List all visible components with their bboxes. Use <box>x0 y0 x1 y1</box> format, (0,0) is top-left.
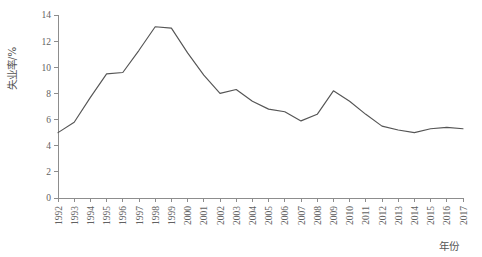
y-tick-label: 12 <box>42 37 52 47</box>
chart-figure: 02468101214 1992199319941995199619971998… <box>0 0 482 257</box>
x-tick-label: 2010 <box>345 206 355 225</box>
x-tick-label: 1997 <box>135 206 145 225</box>
x-tick-label: 1998 <box>151 206 161 225</box>
x-tick-label: 2013 <box>394 206 404 225</box>
x-tick-label: 1995 <box>102 206 112 225</box>
x-tick-label: 2001 <box>199 206 209 225</box>
x-axis-title: 年份 <box>439 240 460 252</box>
y-axis-tick-labels: 02468101214 <box>42 10 52 203</box>
x-tick-label: 2000 <box>183 206 193 225</box>
y-axis-title: 失业率/% <box>6 47 18 91</box>
x-tick-label: 2004 <box>248 206 258 225</box>
x-tick-label: 2005 <box>264 206 274 225</box>
y-tick-label: 2 <box>46 167 51 177</box>
x-axis-ticks <box>58 198 463 202</box>
x-tick-label: 2009 <box>329 206 339 225</box>
x-tick-label: 2003 <box>232 206 242 225</box>
x-tick-label: 1994 <box>86 206 96 225</box>
x-tick-label: 2011 <box>361 206 371 225</box>
x-tick-label: 2016 <box>442 206 452 225</box>
y-tick-label: 8 <box>46 89 51 99</box>
x-axis-tick-labels: 1992199319941995199619971998199920002001… <box>54 206 469 225</box>
x-tick-label: 2017 <box>459 206 469 225</box>
y-tick-label: 10 <box>42 63 52 73</box>
unemployment-rate-line <box>58 27 463 133</box>
x-tick-label: 2012 <box>378 206 388 225</box>
x-tick-label: 2008 <box>313 206 323 225</box>
y-tick-label: 6 <box>46 115 51 125</box>
y-tick-label: 4 <box>46 141 51 151</box>
x-tick-label: 2014 <box>410 206 420 225</box>
x-tick-label: 2006 <box>280 206 290 225</box>
plot-area: 02468101214 1992199319941995199619971998… <box>42 10 469 225</box>
y-tick-label: 14 <box>42 10 52 20</box>
y-tick-label: 0 <box>46 193 51 203</box>
x-tick-label: 1992 <box>54 206 64 225</box>
x-tick-label: 1993 <box>70 206 80 225</box>
x-tick-label: 2002 <box>216 206 226 225</box>
x-tick-label: 1999 <box>167 206 177 225</box>
x-tick-label: 2007 <box>297 206 307 225</box>
x-tick-label: 2015 <box>426 206 436 225</box>
line-chart-canvas: 02468101214 1992199319941995199619971998… <box>0 0 482 257</box>
y-axis-ticks <box>54 15 58 198</box>
x-tick-label: 1996 <box>118 206 128 225</box>
